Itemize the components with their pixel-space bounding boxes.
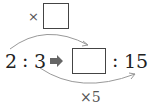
top-answer-box[interactable] <box>43 3 69 29</box>
right-arrow-icon <box>50 55 63 67</box>
left-ratio-second: 3 <box>34 51 46 71</box>
top-multiply-sign: × <box>28 10 39 24</box>
bottom-multiplier-label: ×5 <box>80 90 101 104</box>
left-ratio-colon: : <box>22 50 28 70</box>
top-arc-arrow <box>10 34 88 49</box>
right-ratio-second: 15 <box>124 51 148 71</box>
ratio-answer-box[interactable] <box>72 48 106 74</box>
right-ratio-colon: : <box>112 50 118 70</box>
left-ratio-first: 2 <box>5 51 17 71</box>
